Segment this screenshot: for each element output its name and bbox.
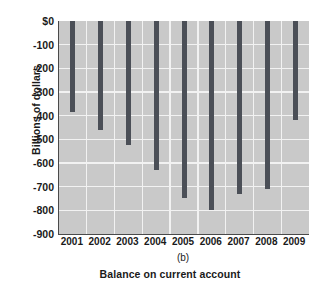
bar [182,21,187,198]
plot-area [58,21,309,235]
x-axis-tick-label: 2009 [274,236,314,247]
x-axis-title: Balance on current account [30,268,310,280]
panel-letter-caption: (b) [58,252,308,263]
gridline-vertical [142,21,143,234]
bar [70,21,75,112]
gridline-vertical [225,21,226,234]
gridline-vertical [253,21,254,234]
gridline-vertical [169,21,170,234]
y-axis-tick-label: -400 [2,110,54,122]
gridline-vertical [86,21,87,234]
bar [209,21,214,210]
gridline-vertical [281,21,282,234]
plot-surface [59,21,309,234]
y-axis-tick-label: -700 [2,181,54,193]
y-axis-tick-label: -100 [2,39,54,51]
gridline-vertical [197,21,198,234]
y-axis-tick-label: -600 [2,157,54,169]
bar [237,21,242,194]
y-axis-tick-label: -900 [2,228,54,240]
y-axis-tick-labels: $0-100-200-300-400-500-600-700-800-900 [0,21,54,234]
y-axis-tick-label: $0 [2,15,54,27]
gridline-horizontal [59,210,309,211]
bar [293,21,298,120]
bar [154,21,159,170]
gridline-vertical [114,21,115,234]
y-axis-tick-label: -200 [2,62,54,74]
bar [98,21,103,130]
y-axis-tick-label: -300 [2,86,54,98]
x-axis-tick-labels: 200120022003200420052006200720082009 [58,236,308,252]
y-axis-tick-label: -500 [2,133,54,145]
bar [265,21,270,189]
chart-figure: Billions of dollars $0-100-200-300-400-5… [0,0,320,290]
y-axis-tick-label: -800 [2,204,54,216]
bar [126,21,131,145]
